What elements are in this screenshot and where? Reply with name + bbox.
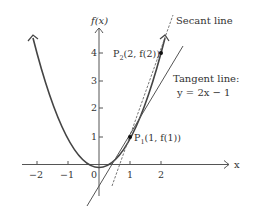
point-p1: [128, 135, 132, 139]
p2-label: P2(2, f(2)): [113, 48, 160, 62]
y-axis-label: f(x): [90, 15, 108, 26]
y-tick-label: 3: [91, 75, 97, 86]
y-tick-label: 1: [91, 131, 97, 142]
x-axis-label: x: [234, 159, 240, 170]
x-tick-label: −1: [60, 169, 74, 180]
tangent-line-label: Tangent line:: [173, 73, 239, 84]
secant-line-label: Secant line: [176, 15, 233, 26]
x-tick-label: 2: [158, 169, 164, 180]
tangent-line: [87, 46, 183, 206]
tangent-equation-label: y = 2x − 1: [176, 87, 231, 98]
x-axis: [22, 161, 229, 169]
x-tick-label: −2: [29, 169, 43, 180]
p1-label: P1(1, f(1)): [134, 132, 181, 146]
x-tick-label: 1: [127, 169, 133, 180]
x-tick-label: 0: [91, 169, 97, 180]
secant-line: [112, 15, 173, 186]
y-tick-label: 4: [91, 47, 97, 58]
derivative-diagram: f(x) x −2 −1 0 1 2 4 3 2 1 Secant line T…: [0, 0, 253, 217]
y-tick-label: 2: [91, 102, 97, 113]
